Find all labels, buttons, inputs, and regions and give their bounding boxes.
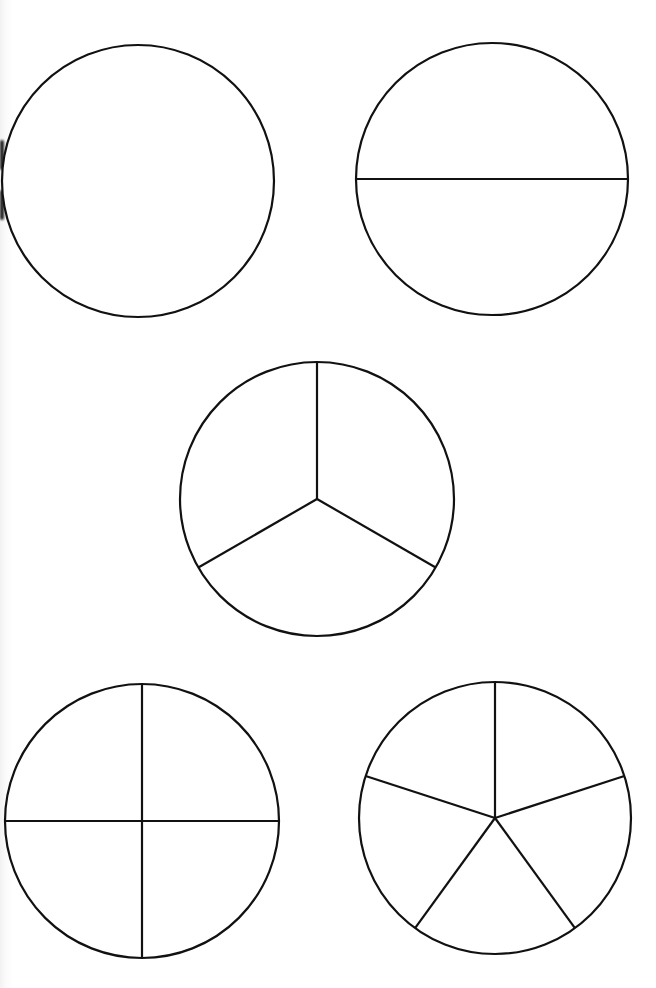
worksheet-page: [0, 0, 656, 988]
fraction-circle-halves: [356, 43, 628, 315]
fraction-circle-thirds: [180, 362, 454, 636]
fraction-circle-fifths: [359, 682, 631, 954]
fraction-circles-canvas: [0, 0, 656, 988]
fraction-circle-whole: [2, 45, 274, 317]
fraction-circle-quarters: [5, 684, 279, 958]
circle-outline: [2, 45, 274, 317]
